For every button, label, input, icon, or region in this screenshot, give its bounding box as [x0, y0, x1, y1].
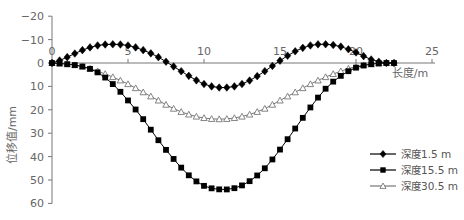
- triangle-marker: [178, 109, 184, 115]
- series-diamond: [49, 40, 397, 91]
- square-marker: [201, 183, 207, 189]
- diamond-marker: [254, 72, 260, 80]
- square-marker: [247, 178, 253, 184]
- square-marker: [87, 66, 93, 72]
- square-marker: [292, 126, 298, 132]
- diamond-marker: [170, 63, 176, 71]
- diamond-marker: [307, 42, 313, 50]
- diamond-marker: [155, 53, 161, 61]
- square-marker: [216, 186, 222, 192]
- legend-item: 深度30.5 m: [370, 180, 458, 192]
- y-tick-label: 30: [30, 127, 44, 140]
- square-marker: [361, 63, 367, 69]
- square-marker: [194, 178, 200, 184]
- square-marker: [186, 172, 192, 178]
- y-tick-label: 60: [30, 197, 44, 210]
- x-tick-label: 10: [197, 45, 211, 58]
- diamond-marker: [72, 50, 78, 58]
- diamond-marker: [338, 43, 344, 51]
- square-marker: [64, 61, 70, 67]
- square-marker: [133, 107, 139, 113]
- diamond-marker: [322, 40, 328, 48]
- square-marker: [380, 167, 385, 172]
- triangle-marker: [300, 85, 306, 91]
- legend-item: 深度1.5 m: [370, 148, 451, 160]
- x-tick-label: 0: [49, 45, 56, 58]
- square-marker: [178, 165, 184, 171]
- triangle-marker: [117, 77, 123, 83]
- displacement-chart: −20−1001020304050600510152025长度/m位移值/mm …: [0, 0, 464, 220]
- diamond-marker: [292, 48, 298, 56]
- triangle-marker: [254, 109, 260, 115]
- diamond-marker: [246, 77, 252, 85]
- series-square: [49, 60, 397, 192]
- triangle-marker: [140, 89, 146, 95]
- square-marker: [323, 86, 329, 92]
- triangle-marker: [125, 81, 131, 87]
- square-marker: [239, 183, 245, 189]
- y-tick-label: 40: [30, 151, 44, 164]
- diamond-marker: [64, 53, 70, 61]
- square-marker: [148, 127, 154, 133]
- diamond-marker: [102, 41, 108, 49]
- square-marker: [300, 115, 306, 121]
- legend-label: 深度1.5 m: [401, 148, 451, 160]
- triangle-marker: [110, 74, 116, 80]
- triangle-marker: [277, 97, 283, 103]
- diamond-marker: [94, 42, 100, 50]
- square-marker: [232, 185, 238, 191]
- triangle-marker: [170, 105, 176, 111]
- diamond-marker: [315, 41, 321, 49]
- diamond-marker: [110, 40, 116, 48]
- axes: −20−1001020304050600510152025长度/m位移值/mm: [5, 10, 439, 210]
- legend-label: 深度15.5 m: [401, 164, 458, 176]
- square-marker: [346, 68, 352, 74]
- y-tick-label: 0: [37, 57, 44, 70]
- legend-item: 深度15.5 m: [370, 164, 458, 176]
- square-marker: [80, 64, 86, 70]
- triangle-marker: [163, 101, 169, 107]
- triangle-marker: [262, 105, 268, 111]
- square-marker: [171, 156, 177, 162]
- square-marker: [72, 62, 78, 68]
- diamond-marker: [87, 44, 93, 52]
- diamond-marker: [148, 50, 154, 58]
- y-tick-label: −10: [21, 34, 44, 47]
- square-marker: [209, 185, 215, 191]
- square-marker: [140, 116, 146, 122]
- diamond-marker: [132, 44, 138, 52]
- diamond-marker: [330, 41, 336, 49]
- square-marker: [277, 147, 283, 153]
- square-marker: [254, 173, 260, 179]
- triangle-marker: [284, 93, 290, 99]
- triangle-marker: [155, 97, 161, 103]
- diamond-marker: [216, 84, 222, 92]
- y-tick-label: −20: [21, 10, 44, 23]
- diamond-marker: [239, 80, 245, 88]
- diamond-marker: [186, 72, 192, 80]
- y-axis-label: 位移值/mm: [5, 106, 19, 164]
- x-tick-label: 25: [425, 45, 439, 58]
- y-tick-label: 10: [30, 80, 44, 93]
- diamond-marker: [140, 46, 146, 54]
- square-marker: [330, 79, 336, 85]
- diamond-marker: [380, 150, 386, 157]
- square-marker: [118, 89, 124, 95]
- square-marker: [163, 147, 169, 153]
- square-marker: [270, 157, 276, 163]
- square-marker: [315, 95, 321, 101]
- triangle-marker: [269, 101, 275, 107]
- triangle-marker: [315, 77, 321, 83]
- diamond-marker: [178, 67, 184, 75]
- diamond-marker: [231, 83, 237, 91]
- diamond-marker: [79, 46, 85, 54]
- legend-label: 深度30.5 m: [401, 180, 458, 192]
- y-tick-label: 50: [30, 174, 44, 187]
- square-marker: [262, 165, 268, 171]
- diamond-marker: [163, 58, 169, 66]
- square-marker: [110, 81, 116, 87]
- diamond-marker: [117, 41, 123, 49]
- square-marker: [224, 187, 230, 193]
- triangle-marker: [292, 89, 298, 95]
- diamond-marker: [201, 80, 207, 88]
